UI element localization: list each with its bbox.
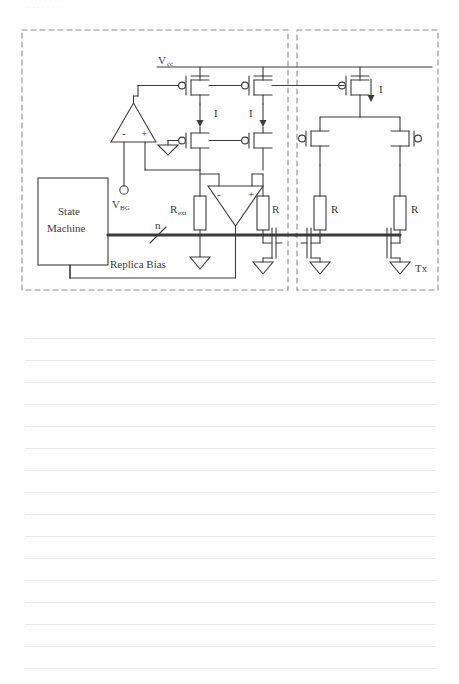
label-current-tx: I xyxy=(379,83,383,95)
ground-symbol-tx-left xyxy=(310,262,330,274)
circuit-schematic-figure: V cc I I I - + - + V BG State Machine R … xyxy=(0,0,459,330)
ruled-line xyxy=(25,646,436,647)
ruled-line xyxy=(25,580,436,581)
ruled-line xyxy=(25,426,436,427)
label-resistor-r3: R xyxy=(411,203,419,215)
ruled-line xyxy=(25,382,436,383)
ruled-line xyxy=(25,624,436,625)
ruled-line xyxy=(25,602,436,603)
label-bus-width: n xyxy=(155,219,161,231)
label-tx: Tx xyxy=(415,262,428,274)
pmos2-gate-bubble xyxy=(242,82,249,89)
label-resistor-r1: R xyxy=(272,203,280,215)
ground-symbol-replica-nmos xyxy=(253,262,273,274)
ruled-line xyxy=(25,360,436,361)
ruled-line xyxy=(25,470,436,471)
resistor-r1 xyxy=(257,196,269,230)
label-rext: R xyxy=(170,203,178,215)
vbg-terminal-node xyxy=(120,186,128,194)
label-opamp-right-minus: - xyxy=(217,188,221,200)
pmos5-gate-bubble xyxy=(242,137,249,144)
pmos4-gate-bubble xyxy=(179,137,186,144)
label-opamp-right-plus: + xyxy=(248,188,254,200)
ruled-line xyxy=(25,668,436,669)
ruled-line xyxy=(25,338,436,339)
label-state-machine-line1: State xyxy=(58,205,80,217)
label-current-center: I xyxy=(249,107,253,119)
ground-symbol-gate xyxy=(158,145,178,155)
opamp-left xyxy=(111,103,156,142)
scanned-page: ....... xyxy=(0,0,459,684)
current-arrow-center xyxy=(260,104,267,127)
label-replica-bias: Replica Bias xyxy=(110,258,166,270)
resistor-r3 xyxy=(394,196,406,230)
resistor-rext xyxy=(194,196,206,230)
ground-symbol-tx-right xyxy=(390,262,410,274)
resistor-r2 xyxy=(314,196,326,230)
label-current-left: I xyxy=(214,107,218,119)
ruled-line xyxy=(25,536,436,537)
ruled-line xyxy=(25,448,436,449)
label-vbg-subscript: BG xyxy=(120,204,130,212)
tx-left-gate-bubble xyxy=(299,135,306,142)
ruled-line xyxy=(25,514,436,515)
current-arrow-tx xyxy=(368,79,375,102)
label-vbg: V xyxy=(112,198,120,210)
ruled-line xyxy=(25,404,436,405)
ruled-line xyxy=(25,558,436,559)
current-arrow-left xyxy=(197,104,204,127)
label-vcc-subscript: cc xyxy=(167,60,173,68)
tx-dashed-border xyxy=(297,30,438,290)
pmos1-gate-bubble xyxy=(179,82,186,89)
label-opamp-left-plus: + xyxy=(141,127,147,139)
label-state-machine-line2: Machine xyxy=(47,222,86,234)
label-resistor-r2: R xyxy=(331,203,339,215)
ruled-lines-area xyxy=(0,328,459,684)
ruled-line xyxy=(25,492,436,493)
ground-symbol-rext xyxy=(190,257,210,269)
label-vcc: V xyxy=(158,54,166,66)
label-rext-subscript: ext xyxy=(178,209,187,217)
label-opamp-left-minus: - xyxy=(122,127,126,139)
tx-right-gate-bubble xyxy=(415,135,422,142)
